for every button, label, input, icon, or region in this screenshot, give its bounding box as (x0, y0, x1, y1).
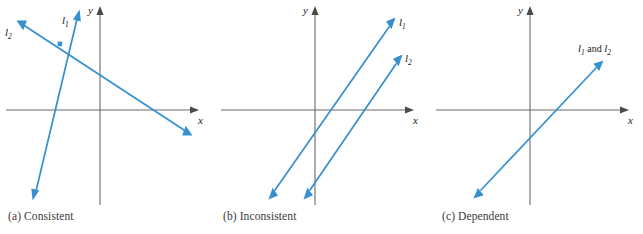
panel-b-caption: (b) Inconsistent (223, 210, 296, 222)
panel-b-graph: y x l1 l2 (215, 0, 430, 210)
panel-a-graph: y x l1 l2 (0, 0, 215, 210)
intersection-point (58, 42, 63, 47)
line-label-l2: l2 (5, 26, 12, 41)
line-label-l1-and-l2: l1 and l2 (578, 42, 611, 57)
line-l1-arrowhead-bottom (269, 188, 279, 200)
panel-c-caption: (c) Dependent (442, 210, 509, 222)
y-axis-arrowhead (311, 6, 318, 15)
panel-c-graph: y x l1 and l2 (430, 0, 643, 210)
line-l2 (310, 64, 396, 190)
line-l2 (25, 26, 184, 130)
line-l1-arrowhead-top (73, 10, 81, 22)
y-axis-arrowhead (526, 6, 533, 15)
line-l1-and-l2 (481, 68, 596, 190)
line-l1 (275, 27, 389, 190)
x-axis-label: x (627, 114, 633, 126)
x-axis-label: x (197, 114, 203, 126)
panel-a-caption: (a) Consistent (8, 210, 74, 222)
y-axis-arrowhead (96, 6, 103, 15)
y-axis-label: y (87, 4, 93, 16)
y-axis-label: y (302, 4, 308, 16)
panel-dependent: y x l1 and l2 (c) Dependent (430, 0, 643, 234)
x-axis-arrowhead (190, 106, 199, 113)
line-label-l2: l2 (405, 52, 412, 67)
x-axis-arrowhead (620, 106, 629, 113)
line-l2-arrowhead-bottom (304, 188, 314, 200)
x-axis-arrowhead (405, 106, 414, 113)
line-l1 (36, 19, 77, 191)
y-axis-label: y (517, 4, 523, 16)
line-l2-arrowhead-top (393, 55, 403, 67)
line-l1-arrowhead-top (386, 18, 396, 30)
panel-consistent: y x l1 l2 (a) Consistent (0, 0, 215, 234)
line-label-l1: l1 (399, 16, 406, 31)
figure-systems-of-equations: y x l1 l2 (a) Consistent (0, 0, 643, 234)
panel-inconsistent: y x l1 l2 (b) Inconsistent (215, 0, 430, 234)
x-axis-label: x (412, 114, 418, 126)
line-label-l1: l1 (62, 14, 69, 29)
line-l1-arrowhead-bottom (31, 189, 39, 201)
